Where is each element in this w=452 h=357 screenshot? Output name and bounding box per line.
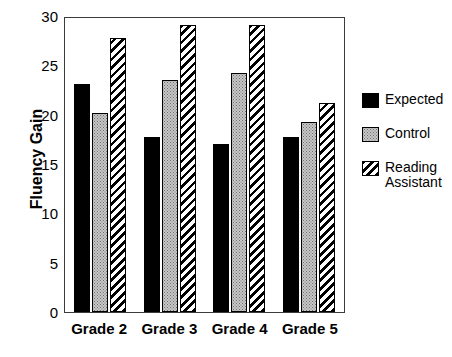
legend: Expected Control Reading Assistant (362, 92, 452, 208)
legend-item-expected: Expected (362, 92, 452, 108)
bars-container (65, 18, 344, 312)
legend-label-control: Control (385, 126, 430, 141)
legend-item-reading-assistant: Reading Assistant (362, 160, 452, 190)
y-tick-0: 0 (28, 305, 58, 320)
legend-swatch-expected-icon (362, 93, 379, 108)
bar-expected-grade-4 (213, 144, 229, 312)
bar-expected-grade-3 (144, 137, 160, 312)
bar-reading-assistant-grade-2 (110, 38, 126, 312)
bar-reading-assistant-grade-5 (319, 103, 335, 312)
x-label-grade-3: Grade 3 (134, 318, 204, 342)
bar-group-grade-5 (274, 18, 344, 312)
bar-expected-grade-5 (283, 137, 299, 312)
legend-item-control: Control (362, 126, 452, 142)
y-tick-30: 30 (28, 9, 58, 24)
bar-control-grade-4 (231, 73, 247, 312)
bar-group-grade-2 (65, 18, 135, 312)
plot-area (64, 17, 345, 313)
legend-swatch-control-icon (362, 127, 379, 142)
legend-label-expected: Expected (385, 92, 443, 107)
bar-control-grade-2 (92, 113, 108, 312)
bar-expected-grade-2 (74, 84, 90, 312)
y-tick-10: 10 (28, 206, 58, 221)
bar-group-grade-3 (135, 18, 205, 312)
bar-control-grade-3 (162, 80, 178, 312)
y-tick-15: 15 (28, 157, 58, 172)
fluency-gain-bar-chart: Fluency Gain 30 25 20 15 10 5 0 Grade 2 … (0, 0, 452, 357)
bar-reading-assistant-grade-4 (249, 25, 265, 312)
y-tick-20: 20 (28, 108, 58, 123)
bar-reading-assistant-grade-3 (180, 25, 196, 312)
y-axis-tick-labels: 30 25 20 15 10 5 0 (26, 0, 58, 357)
y-tick-25: 25 (28, 58, 58, 73)
bar-group-grade-4 (205, 18, 275, 312)
legend-swatch-reading-assistant-icon (362, 161, 379, 176)
x-label-grade-4: Grade 4 (205, 318, 275, 342)
y-tick-5: 5 (28, 256, 58, 271)
x-axis-tick-labels: Grade 2 Grade 3 Grade 4 Grade 5 (64, 318, 345, 342)
legend-label-reading-assistant: Reading Assistant (385, 160, 442, 190)
x-label-grade-5: Grade 5 (275, 318, 345, 342)
x-label-grade-2: Grade 2 (64, 318, 134, 342)
bar-control-grade-5 (301, 122, 317, 312)
